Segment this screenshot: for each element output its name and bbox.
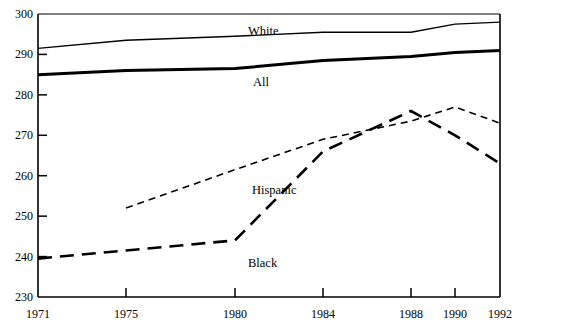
y-tick-label: 290 xyxy=(0,48,33,60)
x-tick-label: 1984 xyxy=(298,308,348,320)
y-tick-label: 230 xyxy=(0,291,33,303)
series-label-hispanic: Hispanic xyxy=(252,184,296,197)
y-tick-label: 250 xyxy=(0,210,33,222)
series-label-white: White xyxy=(248,25,279,38)
x-tick-label: 1971 xyxy=(13,308,63,320)
y-tick-label: 280 xyxy=(0,89,33,101)
chart-axes xyxy=(38,14,500,297)
series-line-hispanic xyxy=(126,107,500,208)
series-label-black: Black xyxy=(248,257,277,270)
chart-plot-area xyxy=(0,0,562,336)
data-series-group xyxy=(38,22,500,259)
x-tick-label: 1975 xyxy=(101,308,151,320)
y-tick-label: 300 xyxy=(0,8,33,20)
y-tick-label: 240 xyxy=(0,251,33,263)
y-tick-label: 260 xyxy=(0,170,33,182)
y-tick-label: 270 xyxy=(0,129,33,141)
line-chart: 230240250260270280290300 197119751980198… xyxy=(0,0,562,336)
x-tick-label: 1992 xyxy=(475,308,525,320)
x-tick-label: 1990 xyxy=(430,308,480,320)
series-line-all xyxy=(38,50,500,74)
x-tick-marks xyxy=(126,288,455,297)
y-tick-marks xyxy=(38,54,47,256)
x-tick-label: 1980 xyxy=(210,308,260,320)
x-tick-label: 1988 xyxy=(386,308,436,320)
series-label-all: All xyxy=(253,76,269,89)
